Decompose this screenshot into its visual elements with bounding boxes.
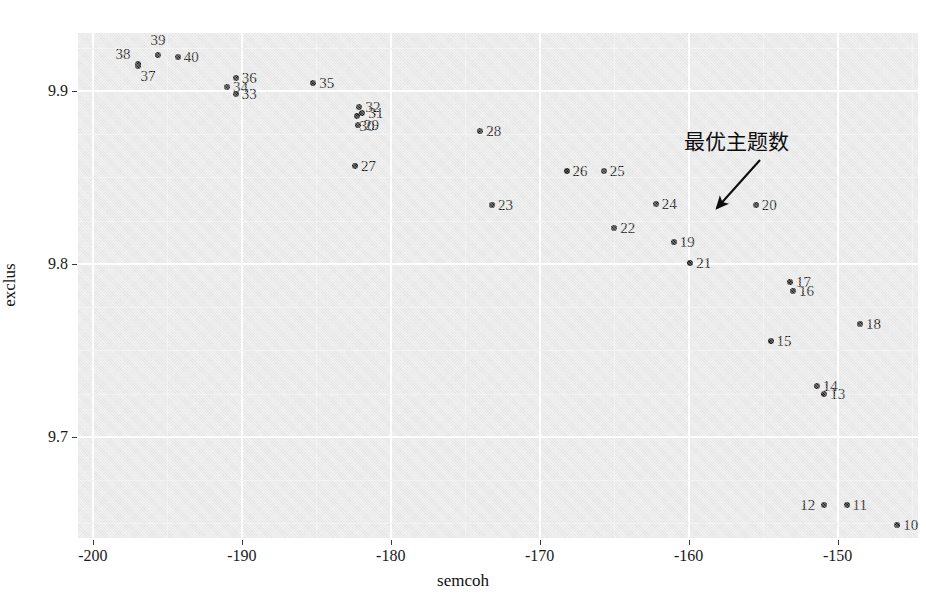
gridline-vertical-minor bbox=[614, 33, 615, 538]
data-point bbox=[155, 52, 161, 58]
data-point-label: 37 bbox=[141, 69, 156, 84]
y-axis-tick-mark bbox=[72, 264, 77, 265]
data-point-label: 39 bbox=[150, 33, 165, 48]
x-axis-tick-mark bbox=[838, 540, 839, 545]
data-point bbox=[352, 163, 358, 169]
x-axis-tick-mark bbox=[540, 540, 541, 545]
data-point bbox=[489, 202, 495, 208]
data-point bbox=[355, 122, 361, 128]
data-point-label: 13 bbox=[830, 387, 845, 402]
y-axis-label: exclus bbox=[0, 263, 20, 306]
data-point-label: 21 bbox=[696, 256, 711, 271]
data-point bbox=[894, 522, 900, 528]
data-point bbox=[224, 84, 230, 90]
x-axis-tick-label: -150 bbox=[823, 547, 852, 565]
gridline-vertical-major bbox=[390, 33, 392, 538]
data-point bbox=[768, 338, 774, 344]
gridline-vertical-major bbox=[837, 33, 839, 538]
gridline-horizontal-minor bbox=[78, 48, 918, 49]
paper-texture-overlay bbox=[78, 33, 918, 538]
x-axis-tick-mark bbox=[689, 540, 690, 545]
gridline-horizontal-minor bbox=[78, 394, 918, 395]
data-point-label: 27 bbox=[361, 159, 376, 174]
data-point bbox=[844, 502, 850, 508]
plot-panel: 4039383736353433323130292827262524232221… bbox=[78, 33, 918, 538]
x-axis-tick-label: -190 bbox=[227, 547, 256, 565]
data-point-label: 20 bbox=[762, 198, 777, 213]
data-point bbox=[821, 391, 827, 397]
gridline-vertical-major bbox=[539, 33, 541, 538]
data-point-label: 11 bbox=[853, 498, 867, 513]
x-axis-tick-label: -200 bbox=[78, 547, 107, 565]
data-point-label: 12 bbox=[800, 498, 815, 513]
data-point-label: 26 bbox=[573, 164, 588, 179]
data-point bbox=[787, 279, 793, 285]
data-point bbox=[175, 54, 181, 60]
data-point bbox=[233, 91, 239, 97]
x-axis-tick-label: -180 bbox=[376, 547, 405, 565]
data-point bbox=[671, 239, 677, 245]
x-axis-tick-label: -170 bbox=[525, 547, 554, 565]
data-point-label: 33 bbox=[242, 87, 257, 102]
data-point bbox=[601, 168, 607, 174]
data-point bbox=[687, 260, 693, 266]
x-axis-tick-mark bbox=[242, 540, 243, 545]
gridline-vertical-minor bbox=[912, 33, 913, 538]
data-point-label: 28 bbox=[486, 124, 501, 139]
gridline-horizontal-major bbox=[78, 263, 918, 265]
gridline-horizontal-minor bbox=[78, 307, 918, 308]
gridline-vertical-major bbox=[688, 33, 690, 538]
gridline-horizontal-minor bbox=[78, 177, 918, 178]
y-axis-tick-label: 9.8 bbox=[30, 255, 68, 273]
data-point-label: 25 bbox=[610, 164, 625, 179]
x-axis-tick-label: -160 bbox=[674, 547, 703, 565]
gridline-horizontal-minor bbox=[78, 350, 918, 351]
data-point bbox=[611, 225, 617, 231]
gridline-horizontal-minor bbox=[78, 221, 918, 222]
x-axis-tick-mark bbox=[93, 540, 94, 545]
gridline-vertical-minor bbox=[316, 33, 317, 538]
data-point bbox=[814, 383, 820, 389]
data-point-label: 10 bbox=[903, 518, 918, 533]
data-point bbox=[821, 502, 827, 508]
y-axis-tick-mark bbox=[72, 437, 77, 438]
gridline-horizontal-major bbox=[78, 436, 918, 438]
y-axis-tick-label: 9.9 bbox=[30, 82, 68, 100]
data-point bbox=[790, 288, 796, 294]
data-point-label: 38 bbox=[116, 47, 131, 62]
gridline-vertical-major bbox=[92, 33, 94, 538]
gridline-vertical-minor bbox=[167, 33, 168, 538]
annotation-label: 最优主题数 bbox=[684, 125, 789, 155]
y-axis-tick-label: 9.7 bbox=[30, 428, 68, 446]
data-point bbox=[653, 201, 659, 207]
gridline-horizontal-minor bbox=[78, 523, 918, 524]
data-point bbox=[564, 168, 570, 174]
gridline-vertical-minor bbox=[465, 33, 466, 538]
data-point bbox=[857, 321, 863, 327]
y-axis-tick-mark bbox=[72, 91, 77, 92]
data-point-label: 24 bbox=[662, 197, 677, 212]
data-point-label: 40 bbox=[184, 50, 199, 65]
scatter-plot-figure: 4039383736353433323130292827262524232221… bbox=[0, 0, 926, 611]
gridline-horizontal-minor bbox=[78, 480, 918, 481]
data-point-label: 23 bbox=[498, 198, 513, 213]
data-point-label: 15 bbox=[777, 334, 792, 349]
gridline-horizontal-major bbox=[78, 90, 918, 92]
data-point-label: 19 bbox=[680, 235, 695, 250]
gridline-vertical-major bbox=[241, 33, 243, 538]
gridline-vertical-minor bbox=[763, 33, 764, 538]
data-point-label: 35 bbox=[319, 76, 334, 91]
data-point bbox=[477, 128, 483, 134]
data-point-label: 16 bbox=[799, 284, 814, 299]
x-axis-label: semcoh bbox=[0, 571, 926, 591]
data-point bbox=[753, 202, 759, 208]
data-point-label: 18 bbox=[866, 317, 881, 332]
data-point-label: 22 bbox=[620, 221, 635, 236]
data-point-label: 29 bbox=[364, 118, 379, 133]
x-axis-tick-mark bbox=[391, 540, 392, 545]
